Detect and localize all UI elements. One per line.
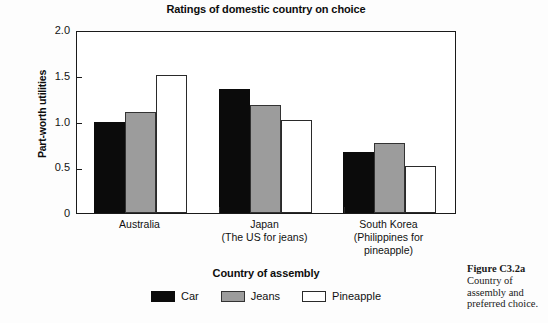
x-axis-category-label: Australia	[70, 218, 210, 231]
y-axis-tick-mark	[77, 169, 82, 170]
legend-label: Jeans	[251, 290, 280, 302]
legend-label: Car	[181, 290, 199, 302]
y-axis-tick-mark	[77, 123, 82, 124]
legend-label: Pineapple	[332, 290, 381, 302]
category-label-line: pineapple)	[319, 244, 459, 257]
legend: CarJeansPineapple	[76, 290, 456, 302]
legend-swatch-jeans-icon	[221, 291, 245, 302]
legend-entry-pineapple[interactable]: Pineapple	[302, 290, 381, 302]
legend-entry-jeans[interactable]: Jeans	[221, 290, 280, 302]
bar-pineapple-1	[281, 120, 312, 213]
x-axis-title: Country of assembly	[76, 267, 456, 279]
figure-caption: Figure C3.2a Country of assembly and pre…	[467, 263, 548, 310]
plot-area	[76, 31, 456, 214]
x-axis-group-tick	[219, 207, 220, 213]
bar-jeans-1	[250, 105, 281, 213]
legend-entry-car[interactable]: Car	[151, 290, 199, 302]
bar-pineapple-2	[405, 166, 436, 213]
bar-jeans-2	[374, 143, 405, 213]
y-axis-tick-mark	[77, 77, 82, 78]
figure-caption-text: Country of assembly and preferred choice…	[467, 275, 548, 310]
category-label-line: Australia	[70, 218, 210, 231]
category-label-line: Japan	[195, 218, 335, 231]
y-axis-tick-label: 0	[30, 207, 70, 219]
bar-pineapple-0	[156, 75, 187, 213]
legend-swatch-car-icon	[151, 291, 175, 302]
y-axis-tick-label: 0.5	[30, 161, 70, 173]
x-axis-group-tick	[344, 207, 345, 213]
x-axis-category-label: South Korea(Philippines forpineapple)	[319, 218, 459, 257]
bar-car-1	[219, 89, 250, 213]
category-label-line: (Philippines for	[319, 231, 459, 244]
category-label-line: (The US for jeans)	[195, 231, 335, 244]
category-label-line: South Korea	[319, 218, 459, 231]
figure-container: Ratings of domestic country on choice Pa…	[0, 0, 548, 323]
bar-car-0	[94, 122, 125, 214]
chart-title: Ratings of domestic country on choice	[76, 3, 456, 15]
y-axis-tick-label: 2.0	[30, 24, 70, 36]
y-axis-tick-label: 1.5	[30, 70, 70, 82]
y-axis-tick-label: 1.0	[30, 116, 70, 128]
figure-caption-number: Figure C3.2a	[467, 263, 548, 275]
legend-swatch-pineapple-icon	[302, 291, 326, 302]
bar-jeans-0	[125, 112, 156, 213]
x-axis-category-label: Japan(The US for jeans)	[195, 218, 335, 244]
bar-car-2	[343, 152, 374, 213]
